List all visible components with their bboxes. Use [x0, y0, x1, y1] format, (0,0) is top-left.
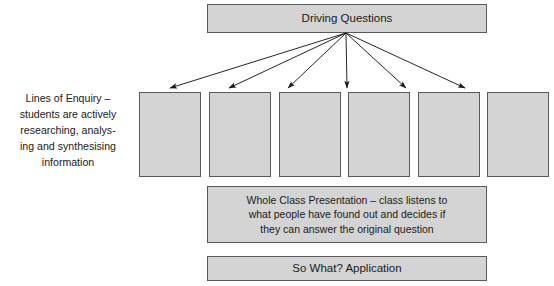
so-what-application-node[interactable]: So What? Application: [207, 256, 487, 281]
lines-of-enquiry-label: Lines of Enquiry – students are actively…: [2, 90, 134, 170]
driving-questions-node[interactable]: Driving Questions: [207, 4, 487, 33]
arrow-to-box-3: [288, 33, 346, 88]
arrow-to-box-4: [346, 33, 347, 88]
arrow-to-box-1: [170, 33, 346, 88]
whole-class-presentation-node[interactable]: Whole Class Presentation – class listens…: [207, 186, 487, 243]
arrow-to-box-6: [346, 33, 465, 88]
enquiry-box-3[interactable]: [279, 92, 341, 177]
enquiry-box-1[interactable]: [139, 92, 201, 177]
enquiry-box-2[interactable]: [209, 92, 271, 177]
arrow-to-box-2: [229, 33, 346, 88]
whole-class-presentation-label: Whole Class Presentation – class listens…: [208, 193, 486, 236]
enquiry-box-6[interactable]: [487, 92, 549, 177]
enquiry-box-4[interactable]: [348, 92, 410, 177]
driving-questions-label: Driving Questions: [208, 11, 486, 27]
so-what-application-label: So What? Application: [208, 261, 486, 277]
diagram-canvas: Driving Questions Lines of Enquiry – stu…: [0, 0, 554, 286]
arrow-to-box-5: [346, 33, 406, 88]
enquiry-box-5[interactable]: [418, 92, 480, 177]
